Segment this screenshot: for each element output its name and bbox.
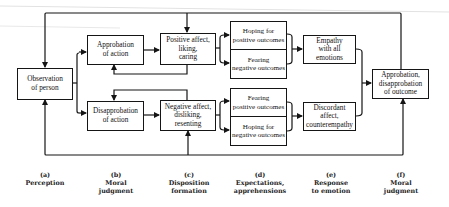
stage-letter: (f) xyxy=(366,171,436,179)
box-text: Fearing xyxy=(248,94,270,102)
hoping-positive-outcomes: Hoping forpositive outcomes xyxy=(231,22,286,50)
stage-label: judgment xyxy=(81,187,151,195)
discordant-affect-box: Discordant affect,counterempathy xyxy=(303,102,356,131)
box-text: positive outcomes xyxy=(233,36,284,44)
stage-label: Moral xyxy=(81,179,151,187)
stage-caption-perception: (a) Perception xyxy=(10,171,80,187)
stage-label: Perception xyxy=(10,179,80,187)
negative-affect-box: Negative affect,disliking,resenting xyxy=(160,100,216,131)
box-text: negative outcomes xyxy=(232,64,285,72)
approbation-of-action-box: Approbationof action xyxy=(87,35,144,65)
stage-label: Disposition xyxy=(154,179,224,187)
positive-expectations-box: Hoping forpositive outcomes Fearingnegat… xyxy=(230,21,287,79)
box-text: of outcome xyxy=(384,87,417,96)
box-text: caring xyxy=(179,52,197,61)
negative-expectations-box: Fearingpositive outcomes Hoping fornegat… xyxy=(230,88,287,146)
stage-label: Moral xyxy=(366,179,436,187)
stage-label: judgment xyxy=(366,187,436,195)
fearing-negative-outcomes: Fearingnegative outcomes xyxy=(231,50,286,78)
stage-letter: (b) xyxy=(81,171,151,179)
box-text: resenting xyxy=(175,119,202,128)
disapprobation-of-action-box: Disapprobationof action xyxy=(87,101,144,131)
stage-letter: (e) xyxy=(296,171,366,179)
box-text: Fearing xyxy=(248,56,270,64)
observation-of-person-box: Observationof person xyxy=(17,68,73,100)
stage-label: formation xyxy=(154,187,224,195)
box-text: Hoping for xyxy=(243,123,274,131)
box-text: positive outcomes xyxy=(233,103,284,111)
stage-letter: (a) xyxy=(10,171,80,179)
stage-caption-expectations: (d) Expectations, apprehensions xyxy=(225,171,295,196)
box-text: counterempathy xyxy=(306,120,353,129)
approbation-of-outcome-box: Approbation,disapprobationof outcome xyxy=(372,69,429,99)
box-text: emotions xyxy=(316,53,343,62)
stage-caption-moral-judgment: (b) Moral judgment xyxy=(81,171,151,196)
stage-caption-disposition-formation: (c) Disposition formation xyxy=(154,171,224,196)
box-text: negative outcomes xyxy=(232,131,285,139)
stage-label: Expectations, xyxy=(225,179,295,187)
stage-caption-response-to-emotion: (e) Response to emotion xyxy=(296,171,366,196)
box-text: Discordant affect, xyxy=(313,103,345,121)
stage-label: to emotion xyxy=(296,187,366,195)
stage-letter: (c) xyxy=(154,171,224,179)
box-text: of action xyxy=(103,115,129,124)
stage-label: apprehensions xyxy=(225,187,295,195)
box-text: of person xyxy=(31,83,58,92)
stage-label: Response xyxy=(296,179,366,187)
empathy-box: Empathywith allemotions xyxy=(303,35,356,64)
hoping-negative-outcomes: Hoping fornegative outcomes xyxy=(231,117,286,145)
box-text: of action xyxy=(103,49,129,58)
fearing-positive-outcomes: Fearingpositive outcomes xyxy=(231,89,286,117)
stage-letter: (d) xyxy=(225,171,295,179)
stage-caption-moral-judgment-outcome: (f) Moral judgment xyxy=(366,171,436,196)
box-text: Hoping for xyxy=(243,27,274,35)
positive-affect-box: Positive affect,liking,caring xyxy=(160,33,216,65)
